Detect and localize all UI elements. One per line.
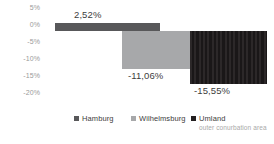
y-tick-label-m15: -15% (0, 72, 40, 80)
legend-sublabel-umland: outer conurbation area (199, 123, 267, 132)
legend-text-hamburg: Hamburg (82, 114, 114, 123)
bar-umland[interactable] (190, 31, 267, 84)
legend-swatch-icon-wilhelmsburg (131, 116, 136, 121)
legend-swatch-icon-hamburg (74, 116, 79, 121)
legend-text-wilhelmsburg: Wilhelmsburg (139, 114, 186, 123)
data-label-wilhelmsburg: -11,06% (128, 70, 163, 81)
legend-label-hamburg: Hamburg (82, 114, 114, 123)
bar-wilhelmsburg[interactable] (122, 31, 199, 69)
y-tick-label-m5: -5% (0, 38, 40, 46)
chart-legend: Hamburg Wilhelmsburg Umland outer conurb… (0, 112, 274, 144)
y-tick-label-m20: -20% (0, 89, 40, 97)
legend-item-umland[interactable]: Umland outer conurbation area (191, 114, 267, 132)
bar-chart: 5% 0% -5% -10% -15% -20% 2,52% -11,06% -… (0, 0, 274, 144)
legend-text-umland: Umland outer conurbation area (199, 114, 267, 132)
bar-hamburg[interactable] (55, 23, 160, 32)
legend-item-wilhelmsburg[interactable]: Wilhelmsburg (131, 114, 186, 123)
legend-swatch-icon-umland (191, 116, 196, 121)
y-tick-label-m10: -10% (0, 55, 40, 63)
plot-area: 2,52% -11,06% -15,55% (45, 8, 269, 106)
y-tick-label-5: 5% (0, 4, 40, 12)
legend-item-hamburg[interactable]: Hamburg (74, 114, 114, 123)
y-axis: 5% 0% -5% -10% -15% -20% (0, 8, 40, 106)
legend-label-wilhelmsburg: Wilhelmsburg (139, 114, 186, 123)
data-label-hamburg: 2,52% (74, 9, 101, 20)
data-label-umland: -15,55% (194, 85, 230, 96)
legend-label-umland: Umland (199, 114, 267, 123)
y-tick-label-0: 0% (0, 21, 40, 29)
